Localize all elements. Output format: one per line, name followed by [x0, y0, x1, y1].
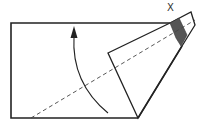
- arrowhead-icon: [71, 26, 78, 38]
- corner-label-x: X: [167, 3, 174, 13]
- fold-line-dashed: [31, 20, 195, 118]
- folding-diagram: [0, 0, 207, 128]
- fold-arrow-curve: [74, 36, 108, 113]
